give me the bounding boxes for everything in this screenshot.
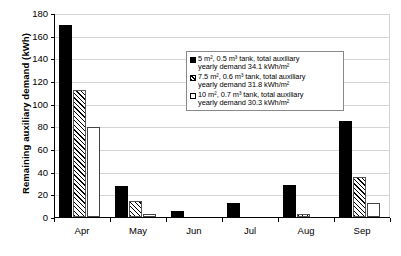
bar-aug-series-2: [297, 214, 310, 217]
bar-group-apr: [59, 13, 100, 217]
x-tick-label-apr: Apr: [54, 225, 110, 236]
x-tick-mark: [222, 218, 223, 222]
bar-sep-series-3: [367, 203, 380, 217]
y-tick-label: 60: [22, 145, 48, 154]
y-tick-label: 180: [22, 9, 48, 18]
bar-apr-series-2: [73, 90, 86, 217]
y-tick-label: 160: [22, 32, 48, 41]
x-tick-label-sep: Sep: [334, 225, 390, 236]
x-tick-mark: [110, 218, 111, 222]
legend-label-series-1-line2: yearly demand 34.1 kWh/m²: [198, 62, 289, 71]
bar-group-jun: [171, 13, 212, 217]
legend-swatch-solid-icon: [190, 57, 196, 63]
bar-may-series-3: [143, 214, 156, 217]
y-tick-label: 140: [22, 54, 48, 63]
legend-label-series-1: 5 m², 0.5 m³ tank, total auxiliaryyearly…: [198, 55, 299, 72]
legend-item-series-1: 5 m², 0.5 m³ tank, total auxiliaryyearly…: [190, 55, 339, 72]
legend-swatch-open-icon: [190, 93, 196, 99]
chart-legend: 5 m², 0.5 m³ tank, total auxiliaryyearly…: [186, 51, 344, 111]
bar-group-aug: [283, 13, 324, 217]
bar-group-jul: [227, 13, 268, 217]
y-tick-label: 20: [22, 190, 48, 199]
bar-chart: Remaining auxiliary demand (kWh) 0204060…: [0, 0, 401, 256]
x-tick-label-jul: Jul: [222, 225, 278, 236]
plot-right-border: [389, 14, 390, 217]
plot-area: 5 m², 0.5 m³ tank, total auxiliaryyearly…: [54, 14, 390, 218]
x-tick-label-jun: Jun: [166, 225, 222, 236]
legend-item-series-2: 7.5 m², 0.6 m³ tank, total auxiliaryyear…: [190, 73, 339, 90]
x-tick-label-aug: Aug: [278, 225, 334, 236]
legend-label-series-3-line2: yearly demand 30.3 kWh/m²: [198, 98, 289, 107]
y-tick-label: 40: [22, 168, 48, 177]
bar-jun-series-1: [171, 211, 184, 217]
bar-aug-series-1: [283, 185, 296, 217]
legend-swatch-hatched-icon: [190, 75, 196, 81]
bar-group-sep: [339, 13, 380, 217]
y-tick-label: 100: [22, 100, 48, 109]
bar-group-may: [115, 13, 156, 217]
legend-label-series-3: 10 m², 0.7 m³ tank, total auxiliaryyearl…: [198, 91, 303, 108]
y-tick-label: 0: [22, 213, 48, 222]
legend-label-series-2: 7.5 m², 0.6 m³ tank, total auxiliaryyear…: [198, 73, 305, 90]
bar-sep-series-2: [353, 177, 366, 217]
bar-may-series-2: [129, 201, 142, 217]
x-tick-mark: [278, 218, 279, 222]
x-tick-mark: [166, 218, 167, 222]
bar-sep-series-1: [339, 121, 352, 217]
bar-jul-series-1: [227, 203, 240, 217]
y-tick-label: 80: [22, 122, 48, 131]
x-tick-mark: [390, 218, 391, 222]
bar-apr-series-3: [87, 127, 100, 217]
legend-label-series-2-line2: yearly demand 31.8 kWh/m²: [198, 80, 289, 89]
bar-may-series-1: [115, 186, 128, 217]
bar-apr-series-1: [59, 25, 72, 217]
x-tick-mark: [334, 218, 335, 222]
y-tick-label: 120: [22, 77, 48, 86]
legend-item-series-3: 10 m², 0.7 m³ tank, total auxiliaryyearl…: [190, 91, 339, 108]
x-tick-mark: [54, 218, 55, 222]
x-tick-label-may: May: [110, 225, 166, 236]
